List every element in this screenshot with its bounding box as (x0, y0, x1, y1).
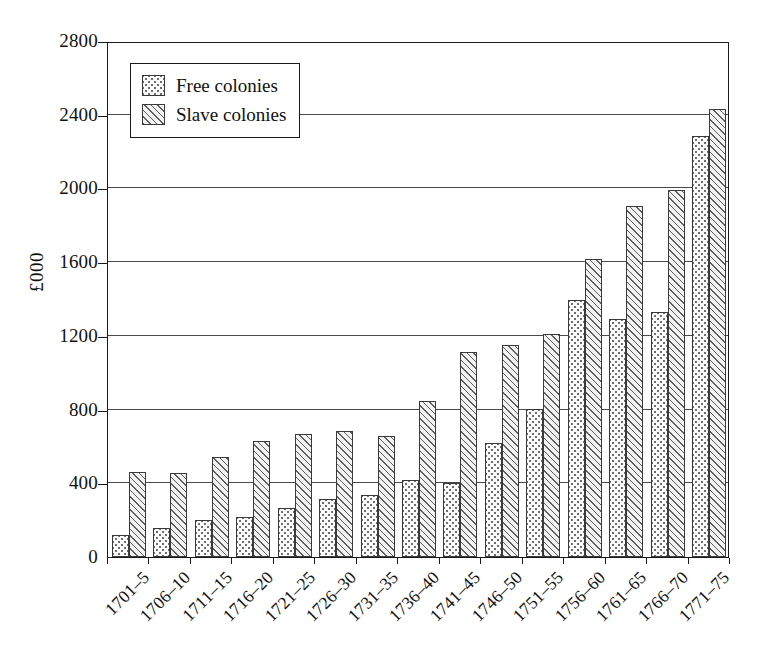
x-tick-mark (107, 558, 108, 564)
bar-free-colonies (361, 495, 378, 557)
x-tick-mark (480, 558, 481, 564)
x-tick-mark (688, 558, 689, 564)
bar-group (647, 43, 688, 557)
legend-label-free-colonies: Free colonies (176, 75, 278, 97)
x-tick-mark (231, 558, 232, 564)
x-tick-mark (273, 558, 274, 564)
y-tick-mark (98, 484, 107, 485)
y-tick-label: 800 (20, 399, 98, 421)
dotted-swatch-icon (142, 75, 165, 96)
bar-free-colonies (278, 508, 295, 557)
bar-slave-colonies (460, 352, 477, 557)
x-tick-mark (356, 558, 357, 564)
bar-chart: £000 040080012001600200024002800 1701–51… (0, 0, 768, 660)
x-tick-mark (605, 558, 606, 564)
y-tick-label: 2800 (20, 30, 98, 52)
bar-free-colonies (526, 409, 543, 557)
bar-slave-colonies (253, 441, 270, 557)
bar-free-colonies (485, 443, 502, 557)
bar-group (315, 43, 356, 557)
x-tick-mark (646, 558, 647, 564)
bar-slave-colonies (212, 457, 229, 557)
y-tick-label: 2400 (20, 104, 98, 126)
y-tick-label: 0 (20, 546, 98, 568)
bar-slave-colonies (543, 334, 560, 557)
bar-free-colonies (112, 535, 129, 557)
bar-group (357, 43, 398, 557)
x-tick-mark (563, 558, 564, 564)
bar-free-colonies (195, 520, 212, 557)
hatched-swatch-icon (142, 104, 165, 125)
y-tick-mark (98, 337, 107, 338)
bar-slave-colonies (295, 434, 312, 557)
bar-slave-colonies (170, 473, 187, 557)
bar-group (564, 43, 605, 557)
x-tick-mark (729, 558, 730, 564)
x-tick-mark (148, 558, 149, 564)
bar-free-colonies (609, 319, 626, 557)
y-tick-label: 2000 (20, 177, 98, 199)
y-tick-label: 400 (20, 472, 98, 494)
bar-free-colonies (319, 499, 336, 557)
bar-slave-colonies (502, 345, 519, 557)
bar-free-colonies (402, 480, 419, 557)
legend-label-slave-colonies: Slave colonies (176, 104, 286, 126)
bar-group (606, 43, 647, 557)
y-tick-mark (98, 42, 107, 43)
bar-slave-colonies (626, 206, 643, 557)
y-tick-label: 1600 (20, 251, 98, 273)
y-tick-mark (98, 116, 107, 117)
bar-free-colonies (568, 300, 585, 557)
x-tick-mark (314, 558, 315, 564)
bar-free-colonies (153, 528, 170, 557)
bar-slave-colonies (585, 259, 602, 557)
y-tick-label: 1200 (20, 325, 98, 347)
bar-slave-colonies (336, 431, 353, 557)
bar-slave-colonies (709, 109, 726, 557)
bar-free-colonies (692, 136, 709, 557)
bar-free-colonies (236, 517, 253, 557)
bar-group (440, 43, 481, 557)
bar-group (398, 43, 439, 557)
legend-item-slave-colonies: Slave colonies (142, 100, 299, 129)
y-tick-mark (98, 263, 107, 264)
x-tick-mark (397, 558, 398, 564)
bar-slave-colonies (668, 190, 685, 557)
bar-slave-colonies (419, 401, 436, 557)
bar-slave-colonies (129, 472, 146, 557)
bar-free-colonies (651, 312, 668, 557)
x-tick-mark (522, 558, 523, 564)
x-tick-mark (439, 558, 440, 564)
y-tick-mark (98, 189, 107, 190)
bar-free-colonies (443, 483, 460, 557)
bar-group (481, 43, 522, 557)
x-tick-mark (190, 558, 191, 564)
legend: Free colonies Slave colonies (130, 63, 300, 138)
legend-item-free-colonies: Free colonies (142, 71, 299, 100)
bar-group (523, 43, 564, 557)
bar-slave-colonies (378, 436, 395, 557)
bar-group (689, 43, 730, 557)
y-tick-mark (98, 411, 107, 412)
